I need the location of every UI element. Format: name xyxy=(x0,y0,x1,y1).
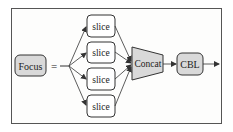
concat-label: Concat xyxy=(135,59,162,69)
focus-diagram: Focus = slice slice slice slice Concat xyxy=(0,0,233,132)
slice-node-4: slice xyxy=(87,95,115,117)
equals-sign: = xyxy=(51,60,57,72)
slice-node-3: slice xyxy=(87,68,115,90)
cbl-label: CBL xyxy=(180,59,199,70)
slice-node-2: slice xyxy=(87,42,115,63)
slice-node-1: slice xyxy=(87,15,115,37)
cbl-node: CBL xyxy=(177,53,203,75)
focus-node: Focus xyxy=(15,55,46,76)
fan-out-edges xyxy=(69,27,86,105)
fan-in-edges xyxy=(115,26,131,106)
slice-label: slice xyxy=(92,48,109,58)
focus-label: Focus xyxy=(19,61,43,72)
slice-label: slice xyxy=(92,102,109,112)
slice-label: slice xyxy=(92,75,109,85)
concat-node: Concat xyxy=(132,47,163,80)
slice-label: slice xyxy=(92,22,109,32)
